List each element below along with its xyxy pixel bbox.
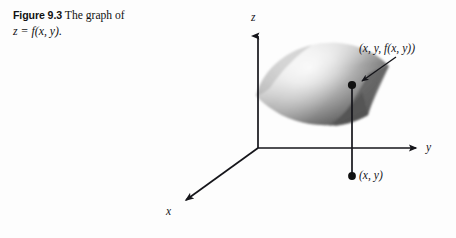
graph-plot-area: z y x (x, y, f(x, y)) (x, y)	[0, 0, 456, 238]
surface-point-label: (x, y, f(x, y))	[359, 42, 415, 55]
x-axis-label: x	[166, 205, 171, 217]
base-point-dot	[348, 172, 356, 180]
base-point-label: (x, y)	[359, 169, 383, 182]
surface-point-dot	[348, 81, 356, 89]
x-axis-line	[186, 148, 258, 200]
y-axis-label: y	[426, 141, 431, 153]
figure-container: Figure 9.3 The graph of z = f(x, y).	[0, 0, 456, 238]
graph-of-f-surface	[256, 43, 389, 126]
z-axis-label: z	[251, 11, 255, 23]
